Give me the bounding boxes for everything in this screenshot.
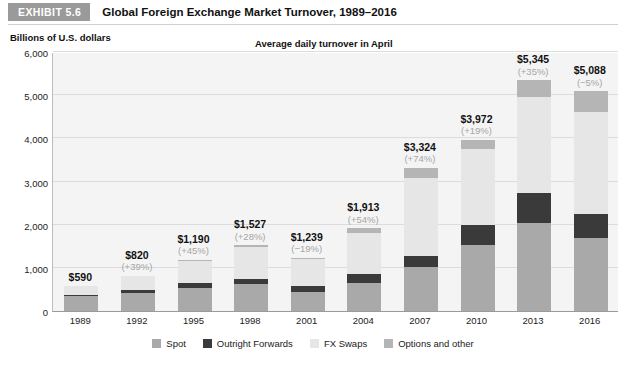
bar-stack[interactable] (64, 286, 98, 311)
chart-legend: SpotOutright ForwardsFX SwapsOptions and… (0, 338, 626, 349)
bar-stack[interactable] (574, 91, 608, 311)
x-axis-tick-label: 1998 (220, 315, 280, 326)
x-axis-tick-label: 2013 (503, 315, 563, 326)
bar-segment[interactable] (574, 112, 608, 215)
bar-segment[interactable] (347, 233, 381, 274)
legend-swatch-icon (152, 339, 161, 348)
bar-segment[interactable] (461, 140, 495, 149)
bar-segment[interactable] (574, 238, 608, 311)
bar-segment[interactable] (404, 178, 438, 256)
bar-segment[interactable] (461, 245, 495, 311)
chart-container: 01,0002,0003,0004,0005,0006,000 19891992… (0, 0, 626, 371)
legend-swatch-icon (384, 339, 393, 348)
bar-segment[interactable] (404, 267, 438, 311)
x-axis-tick-label: 2016 (560, 315, 620, 326)
bar-segment[interactable] (517, 80, 551, 97)
bar-segment[interactable] (291, 292, 325, 311)
bar-segment[interactable] (461, 225, 495, 246)
bar-segment[interactable] (64, 286, 98, 294)
bar-segment[interactable] (574, 91, 608, 111)
gridline (53, 51, 618, 52)
x-axis-tick-label: 2010 (447, 315, 507, 326)
x-axis-tick-label: 2001 (277, 315, 337, 326)
y-axis-tick-label: 1,000 (24, 263, 48, 274)
bar-stack[interactable] (291, 258, 325, 311)
bar-stack[interactable] (121, 276, 155, 311)
bar-segment[interactable] (347, 274, 381, 282)
y-axis-tick-label: 5,000 (24, 91, 48, 102)
bar-segment[interactable] (64, 296, 98, 311)
bar-stack[interactable] (404, 168, 438, 311)
bar-segment[interactable] (234, 247, 268, 279)
bar-segment[interactable] (121, 293, 155, 311)
legend-label: Options and other (398, 338, 474, 349)
bar-stack[interactable] (347, 228, 381, 311)
x-axis-tick-label: 2007 (390, 315, 450, 326)
legend-label: FX Swaps (324, 338, 367, 349)
y-axis-tick-label: 2,000 (24, 220, 48, 231)
bar-segment[interactable] (517, 97, 551, 193)
bar-stack[interactable] (461, 140, 495, 311)
bar-segment[interactable] (404, 256, 438, 266)
y-axis-tick-label: 4,000 (24, 134, 48, 145)
bar-segment[interactable] (121, 276, 155, 290)
legend-swatch-icon (203, 339, 212, 348)
bar-segment[interactable] (234, 284, 268, 311)
bar-segment[interactable] (178, 261, 212, 283)
bar-stack[interactable] (178, 260, 212, 311)
bar-stack[interactable] (234, 245, 268, 311)
bar-segment[interactable] (574, 214, 608, 238)
x-axis-tick-label: 1989 (50, 315, 110, 326)
bar-segment[interactable] (404, 168, 438, 179)
plot-area (52, 53, 618, 312)
bar-segment[interactable] (291, 259, 325, 286)
bar-segment[interactable] (517, 223, 551, 311)
y-axis-tick-label: 3,000 (24, 177, 48, 188)
bar-stack[interactable] (517, 80, 551, 311)
legend-item[interactable]: Outright Forwards (203, 338, 293, 349)
bar-segment[interactable] (347, 283, 381, 311)
y-axis-tick-label: 0 (43, 307, 48, 318)
legend-item[interactable]: Options and other (384, 338, 474, 349)
bar-segment[interactable] (517, 193, 551, 222)
legend-label: Spot (166, 338, 186, 349)
legend-swatch-icon (310, 339, 319, 348)
y-axis-tick-label: 6,000 (24, 48, 48, 59)
x-axis-tick-label: 2004 (333, 315, 393, 326)
x-axis-tick-label: 1995 (164, 315, 224, 326)
x-axis-tick-label: 1992 (107, 315, 167, 326)
legend-item[interactable]: Spot (152, 338, 186, 349)
bar-segment[interactable] (461, 149, 495, 225)
legend-label: Outright Forwards (217, 338, 293, 349)
bar-segment[interactable] (178, 288, 212, 311)
legend-item[interactable]: FX Swaps (310, 338, 367, 349)
